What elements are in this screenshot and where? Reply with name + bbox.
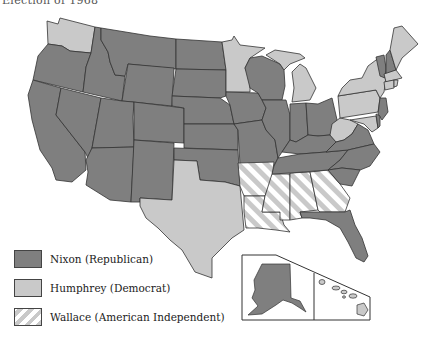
legend-label-wallace: Wallace (American Independent) [50,311,225,323]
humphrey-swatch [14,279,42,297]
legend-label-nixon: Nixon (Republican) [50,253,153,265]
legend-item-humphrey: Humphrey (Democrat) [14,279,170,297]
legend-label-humphrey: Humphrey (Democrat) [50,282,170,294]
legend-item-wallace: Wallace (American Independent) [14,308,225,326]
state-connecticut[interactable] [384,80,394,90]
legend-item-nixon: Nixon (Republican) [14,250,153,268]
state-rhode-island[interactable] [394,80,398,87]
state-wyoming[interactable] [122,64,174,106]
state-new-mexico[interactable] [131,140,174,202]
inset-box [242,255,370,320]
state-kansas[interactable] [184,124,238,150]
state-florida[interactable] [300,210,368,262]
state-colorado[interactable] [134,102,184,143]
state-north-dakota[interactable] [176,39,226,70]
state-maine[interactable] [390,26,418,70]
state-arizona[interactable] [86,147,134,202]
wallace-swatch [14,308,42,326]
nixon-swatch [14,250,42,268]
state-south-dakota[interactable] [172,69,226,98]
